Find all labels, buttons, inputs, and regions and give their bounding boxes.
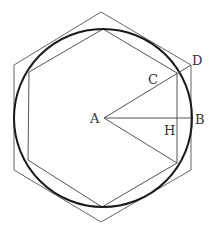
label-B: B [195, 112, 205, 127]
outer-hexagon [14, 12, 191, 222]
geometry-diagram: A B C D H [0, 0, 214, 235]
label-A: A [89, 111, 100, 126]
label-D: D [192, 53, 202, 68]
label-H: H [164, 123, 175, 138]
label-C: C [148, 72, 158, 87]
